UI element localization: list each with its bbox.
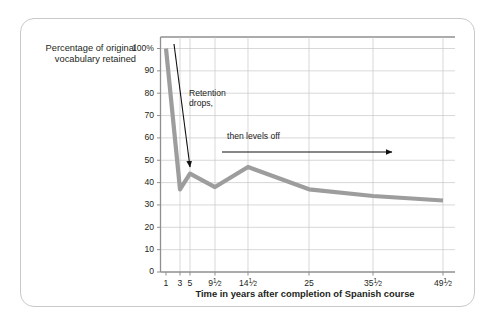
y-tick-label: 70 [124,110,154,120]
x-axis-title: Time in years after completion of Spanis… [140,288,470,299]
y-tick-label: 20 [124,222,154,232]
axis-lines [157,37,455,276]
x-tick-label: 5 [188,278,193,288]
chart-annotation: Retention drops, [189,88,226,109]
y-tick-label: 50 [124,155,154,165]
y-tick-label: 10 [124,244,154,254]
x-tick-label: 141⁄2 [239,278,257,288]
chart-annotation: then levels off [227,131,280,141]
vertical-gridlines [180,37,443,272]
y-tick-label: 30 [124,199,154,209]
x-tick-label: 351⁄2 [364,278,382,288]
y-tick-label: 60 [124,132,154,142]
y-tick-label: 40 [124,177,154,187]
horizontal-gridlines [161,37,456,250]
x-tick-label: 3 [178,278,183,288]
chart-figure: Percentage of original vocabulary retain… [0,0,497,326]
y-tick-label: 100% [124,43,154,53]
data-line-series [166,49,443,201]
x-tick-label: 91⁄2 [208,278,221,288]
y-tick-label: 90 [124,65,154,75]
x-tick-label: 1 [164,278,169,288]
y-tick-label: 80 [124,88,154,98]
y-tick-label: 0 [124,266,154,276]
x-tick-label: 25 [304,278,314,288]
x-tick-label: 491⁄2 [434,278,452,288]
